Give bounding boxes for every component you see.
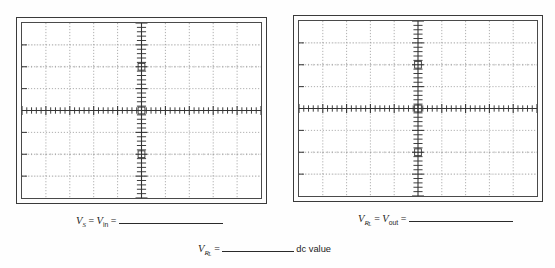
oscilloscope-left — [16, 17, 267, 204]
equals-sign-1: = — [86, 215, 97, 226]
symbol-vrl-dc-subscript-l: L — [208, 251, 211, 257]
caption-load-voltage: VRL = Vout = — [358, 212, 513, 224]
answer-blank-load-voltage[interactable] — [409, 212, 513, 222]
symbol-vout-subscript: out — [389, 219, 398, 226]
equals-sign-4: = — [398, 213, 409, 224]
symbol-vrl-subscript-l: L — [368, 221, 371, 227]
graticule-left — [22, 23, 261, 198]
caption-dc-value: VRL = dc value — [198, 242, 331, 254]
symbol-vin-subscript: in — [103, 221, 108, 228]
oscilloscope-left-screen — [21, 22, 262, 199]
answer-blank-source-voltage[interactable] — [119, 214, 223, 224]
caption-source-voltage: VS = Vin = — [76, 214, 223, 226]
graticule-right — [299, 21, 537, 196]
equals-sign-5: = — [212, 243, 223, 254]
oscilloscope-right-screen — [298, 20, 538, 197]
dc-value-label: dc value — [294, 244, 331, 254]
symbol-vs-subscript: S — [82, 221, 86, 229]
equals-sign-2: = — [108, 215, 119, 226]
oscilloscope-right — [293, 15, 543, 202]
equals-sign-3: = — [372, 213, 383, 224]
answer-blank-dc-value[interactable] — [222, 242, 294, 252]
